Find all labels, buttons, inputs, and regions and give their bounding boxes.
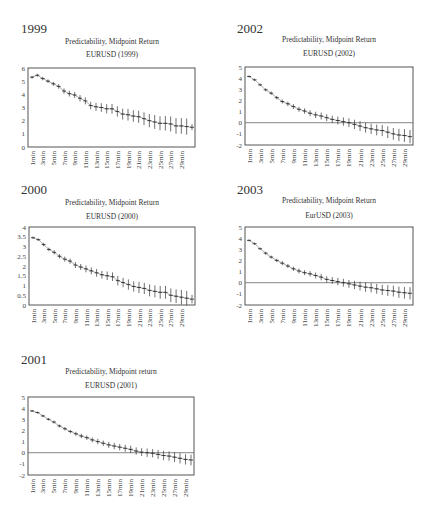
y-tick-label: 3 <box>239 86 243 94</box>
y-tick-label: 2 <box>239 257 243 265</box>
x-tick-label: 7min <box>279 149 287 164</box>
y-tick-label: 5 <box>22 394 26 402</box>
y-tick-label: -2 <box>19 472 25 480</box>
x-tick-label: 29min <box>178 151 186 169</box>
x-tick-label: 27min <box>167 309 175 327</box>
x-tick-label: 3min <box>257 309 265 324</box>
x-tick-label: 15min <box>105 479 113 497</box>
y-tick-label: -1 <box>236 290 242 298</box>
x-tick-label: 19min <box>345 309 353 327</box>
chart-panel-2003: 2003 Predictability, Midpoint Return Eur… <box>215 175 431 340</box>
x-tick-label: 1min <box>246 309 254 324</box>
x-tick-label: 21min <box>357 149 365 167</box>
x-tick-label: 9min <box>71 151 79 166</box>
line-chart: -2-10123451min3min5min7min9min11min13min… <box>215 0 431 175</box>
y-tick-label: 0.5 <box>17 292 26 300</box>
x-tick-label: 25min <box>157 151 165 169</box>
x-tick-label: 25min <box>379 309 387 327</box>
x-tick-label: 5min <box>50 151 58 166</box>
x-tick-label: 13min <box>312 309 320 327</box>
y-tick-label: 0 <box>22 449 26 457</box>
x-tick-label: 17min <box>116 479 124 497</box>
y-tick-label: -1 <box>236 130 242 138</box>
x-tick-label: 9min <box>72 479 80 494</box>
x-tick-label: 7min <box>61 151 69 166</box>
x-tick-label: 11min <box>301 149 309 167</box>
y-tick-label: 3 <box>239 246 243 254</box>
x-tick-label: 5min <box>268 309 276 324</box>
x-tick-label: 25min <box>157 309 165 327</box>
x-tick-label: 23min <box>368 309 376 327</box>
chart-panel-2002: 2002 Predictability, Midpoint Return EUR… <box>215 0 431 175</box>
y-tick-label: 3.5 <box>17 233 26 241</box>
y-tick-label: 0 <box>23 302 27 310</box>
y-tick-label: 2.5 <box>17 253 26 261</box>
x-tick-label: 17min <box>114 309 122 327</box>
y-tick-label: 5 <box>239 64 243 72</box>
y-tick-label: 0 <box>239 119 243 127</box>
y-tick-label: -1 <box>19 460 25 468</box>
line-chart: -2-10123451min3min5min7min9min11min13min… <box>215 175 431 340</box>
y-tick-label: 4 <box>22 91 26 99</box>
line-chart: 01234561min3min5min7min9min11min13min15m… <box>0 0 215 175</box>
x-tick-label: 17min <box>114 151 122 169</box>
x-tick-label: 29min <box>178 309 186 327</box>
y-tick-label: 1 <box>22 130 26 138</box>
y-tick-label: 0 <box>239 279 243 287</box>
y-tick-label: 4 <box>23 224 27 232</box>
x-tick-label: 27min <box>171 479 179 497</box>
data-line <box>249 77 410 137</box>
y-tick-label: 2 <box>22 427 26 435</box>
x-tick-label: 1min <box>29 151 37 166</box>
x-tick-label: 3min <box>40 309 48 324</box>
y-tick-label: 6 <box>22 65 26 73</box>
y-tick-label: 0 <box>22 144 26 152</box>
x-tick-label: 11min <box>83 309 91 327</box>
y-tick-label: 1 <box>23 282 27 290</box>
x-tick-label: 21min <box>357 309 365 327</box>
y-tick-label: 1.5 <box>17 272 26 280</box>
x-tick-label: 23min <box>368 149 376 167</box>
chart-panel-1999: 1999 Predictability, Midpoint Return EUR… <box>0 0 215 175</box>
x-tick-label: 1min <box>30 309 38 324</box>
x-tick-label: 15min <box>323 309 331 327</box>
x-tick-label: 9min <box>290 309 298 324</box>
x-tick-label: 27min <box>167 151 175 169</box>
x-tick-label: 13min <box>94 479 102 497</box>
plot-frame <box>28 397 194 475</box>
x-tick-label: 5min <box>268 149 276 164</box>
plot-frame <box>29 227 195 305</box>
y-tick-label: 4 <box>239 75 243 83</box>
line-chart: 00.511.522.533.541min3min5min7min9min11m… <box>0 175 215 340</box>
x-tick-label: 15min <box>104 309 112 327</box>
y-tick-label: 3 <box>22 104 26 112</box>
y-tick-label: 2 <box>23 263 27 271</box>
y-tick-label: 1 <box>22 438 26 446</box>
x-tick-label: 1min <box>246 149 254 164</box>
x-tick-label: 19min <box>345 149 353 167</box>
x-tick-label: 3min <box>39 479 47 494</box>
x-tick-label: 21min <box>135 151 143 169</box>
y-tick-label: 3 <box>23 243 27 251</box>
x-tick-label: 3min <box>39 151 47 166</box>
x-tick-label: 11min <box>82 151 90 169</box>
x-tick-label: 9min <box>72 309 80 324</box>
x-tick-label: 25min <box>160 479 168 497</box>
x-tick-label: 29min <box>401 149 409 167</box>
x-tick-label: 1min <box>29 479 37 494</box>
chart-panel-2000: 2000 Predictability, Midpoint Return EUR… <box>0 175 215 340</box>
data-line <box>32 75 192 127</box>
x-tick-label: 5min <box>51 309 59 324</box>
y-tick-label: 3 <box>22 416 26 424</box>
y-tick-label: 4 <box>22 405 26 413</box>
x-tick-label: 21min <box>138 479 146 497</box>
x-tick-label: 11min <box>301 309 309 327</box>
plot-frame <box>28 68 195 147</box>
y-tick-label: 1 <box>239 268 243 276</box>
x-tick-label: 11min <box>83 479 91 497</box>
x-tick-label: 7min <box>279 309 287 324</box>
chart-panel-2001: 2001 Predictability, Midpoint return EUR… <box>0 340 215 514</box>
x-tick-label: 13min <box>93 309 101 327</box>
data-line <box>249 240 410 293</box>
line-chart: -2-10123451min3min5min7min9min11min13min… <box>0 340 215 514</box>
